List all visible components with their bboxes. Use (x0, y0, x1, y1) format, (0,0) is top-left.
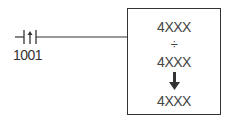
operand1-register: 4XXX (128, 20, 220, 34)
operand2-register: 4XXX (128, 55, 220, 69)
ladder-rung: 1001 4XXX ÷ 4XXX 4XXX (0, 0, 225, 122)
result-register: 4XXX (128, 94, 220, 108)
divide-function-block: 4XXX ÷ 4XXX 4XXX (127, 8, 221, 115)
divide-icon: ÷ (128, 38, 220, 52)
down-arrow-icon (167, 71, 183, 91)
transition-up-arrow-icon (28, 31, 33, 44)
contact-address-label: 1001 (13, 48, 42, 62)
